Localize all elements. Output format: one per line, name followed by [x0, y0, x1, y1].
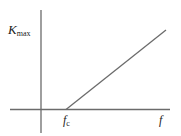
kmax-vs-frequency-chart: Kmax fc f	[0, 0, 181, 136]
x-axis-label: f	[159, 113, 164, 127]
y-axis-label: Kmax	[7, 22, 30, 38]
threshold-frequency-label: fc	[63, 113, 70, 128]
kmax-line	[66, 30, 166, 110]
